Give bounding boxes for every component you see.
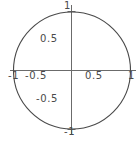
x-tick-label-neg-1: -1 — [8, 71, 19, 81]
y-tick-label-1: 1 — [64, 1, 71, 11]
y-tick-label-0.5: 0.5 — [40, 34, 58, 44]
y-tick-label-neg-1: -1 — [64, 127, 75, 137]
x-tick-label-neg-0.5: -0.5 — [25, 71, 47, 81]
plot-canvas — [0, 0, 139, 141]
y-tick-label-neg-0.5: -0.5 — [36, 94, 58, 104]
x-tick-label-1: 1 — [128, 71, 135, 81]
x-tick-label-0.5: 0.5 — [85, 71, 103, 81]
unit-circle-plot: 1 0.5 -0.5 -1 -1 -0.5 0.5 1 — [0, 0, 139, 141]
